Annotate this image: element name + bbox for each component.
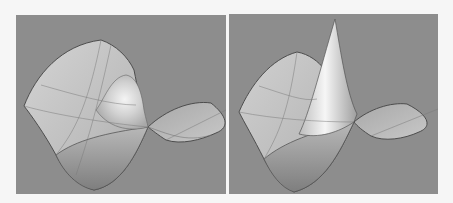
surface-render-smooth-bump bbox=[16, 15, 226, 194]
surface-smooth-bump-graphic bbox=[16, 15, 226, 194]
surface-sharp-spike-graphic bbox=[229, 14, 438, 194]
surface-render-sharp-spike bbox=[229, 14, 438, 194]
